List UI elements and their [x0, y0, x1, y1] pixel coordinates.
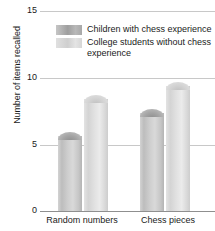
legend-item-children: Children with chess experience: [56, 24, 215, 35]
legend: Children with chess experience College s…: [56, 24, 215, 60]
gridline-15: 15: [40, 11, 215, 12]
bar-children-random-numbers: [58, 132, 82, 211]
bar-children-chess-pieces: [140, 109, 164, 211]
bar-college-random-numbers: [84, 95, 108, 211]
bar-cap: [140, 109, 164, 117]
bar-body: [84, 99, 108, 211]
legend-swatch-college: [56, 38, 82, 48]
x-axis-label-random-numbers: Random numbers: [34, 215, 130, 225]
bar-body: [166, 86, 190, 211]
bar-body: [58, 136, 82, 211]
bar-cap: [166, 82, 190, 90]
x-axis-label-chess-pieces: Chess pieces: [120, 215, 215, 225]
bar-college-chess-pieces: [166, 82, 190, 211]
legend-item-college: College students without chess experienc…: [56, 37, 215, 58]
legend-swatch-children: [56, 25, 82, 35]
y-tick-label-0: 0: [32, 206, 37, 215]
y-tick-label-15: 15: [27, 6, 37, 15]
bar-cap: [58, 132, 82, 140]
legend-label-college: College students without chess experienc…: [87, 37, 215, 58]
y-axis-title: Number of items recalled: [12, 0, 22, 150]
legend-label-children: Children with chess experience: [87, 24, 212, 35]
bar-chart: Number of items recalled 15 10 5 0: [0, 0, 215, 231]
bar-cap: [84, 95, 108, 103]
y-tick-label-5: 5: [32, 140, 37, 149]
gridline-10: 10: [40, 78, 215, 79]
bar-body: [140, 113, 164, 211]
y-tick-label-10: 10: [27, 73, 37, 82]
gridline-0: 0: [40, 211, 215, 212]
